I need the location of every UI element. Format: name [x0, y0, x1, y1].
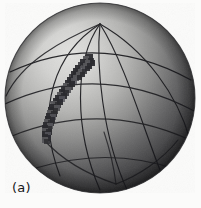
figure-panel: (a) — [0, 0, 201, 208]
panel-label: (a) — [12, 180, 31, 195]
raster-cell — [44, 139, 50, 144]
raster-cell — [77, 75, 82, 80]
sphere-illustration — [0, 0, 201, 208]
